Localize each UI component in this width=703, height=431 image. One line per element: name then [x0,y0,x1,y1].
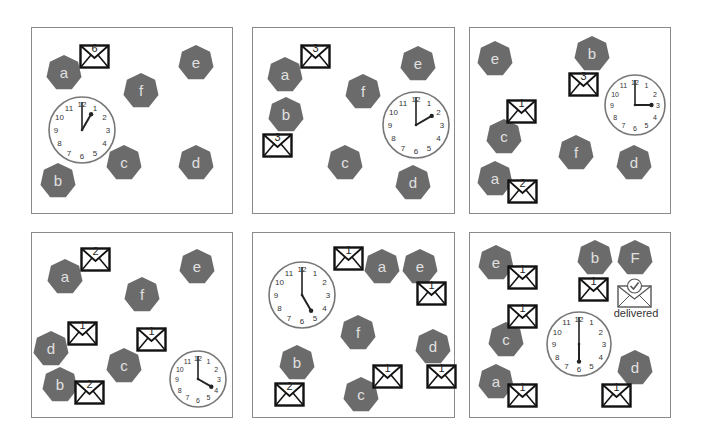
svg-text:1: 1 [589,318,594,327]
envelope-icon: 1 [506,99,537,124]
svg-text:4: 4 [653,114,657,121]
message-count: 1 [506,97,537,109]
svg-text:4: 4 [598,353,603,362]
svg-text:9: 9 [54,126,59,135]
message-count: 3 [568,70,599,82]
svg-text:10: 10 [176,366,184,373]
svg-text:10: 10 [611,91,619,98]
svg-text:7: 7 [186,394,190,401]
node-a: a [364,249,400,285]
node-label: e [477,41,513,77]
node-b: b [40,163,76,199]
envelope-icon: 3 [262,133,293,158]
svg-text:6: 6 [633,125,637,132]
svg-text:2: 2 [214,366,218,373]
node-c: c [106,348,142,384]
node-label: a [46,55,82,91]
svg-text:7: 7 [622,122,626,129]
svg-text:1: 1 [207,358,211,365]
svg-text:6: 6 [577,365,582,374]
svg-text:10: 10 [55,113,64,122]
node-d: d [395,165,431,201]
node-d: d [616,145,652,181]
message-count: 1 [601,381,632,393]
svg-text:8: 8 [555,353,560,362]
svg-text:9: 9 [388,121,393,130]
envelope-icon: 2 [274,382,305,407]
clock-icon: 123456789101112 [603,73,667,141]
node-label: c [106,348,142,384]
svg-text:4: 4 [322,304,327,313]
svg-text:1: 1 [313,269,318,278]
svg-text:9: 9 [274,291,279,300]
envelope-icon: 2 [80,247,111,272]
node-d: d [415,329,451,365]
node-label: a [364,249,400,285]
message-count: 1 [136,325,167,337]
svg-text:11: 11 [184,358,191,365]
node-label: f [123,73,159,109]
svg-text:4: 4 [214,387,218,394]
svg-text:8: 8 [391,134,396,143]
node-b: b [42,367,78,403]
svg-text:1: 1 [645,82,649,89]
svg-text:9: 9 [175,376,179,383]
node-c: c [327,145,363,181]
svg-text:6: 6 [80,152,85,161]
node-a: a [267,57,303,93]
svg-text:1: 1 [427,99,432,108]
node-label: b [279,345,315,381]
node-c: c [106,145,142,181]
node-label: b [574,36,610,72]
node-label: f [345,74,381,110]
message-count: 3 [300,42,331,54]
node-label: b [268,97,304,133]
svg-text:2: 2 [436,108,441,117]
svg-text:7: 7 [287,314,292,323]
clock-icon: 123456789101112 [381,90,451,164]
message-count: 3 [262,131,293,143]
svg-text:1: 1 [93,104,98,113]
svg-text:5: 5 [589,362,594,371]
node-label: b [577,240,613,276]
node-label: f [124,277,160,313]
message-count: 1 [578,275,609,287]
node-b: b [279,345,315,381]
node-f: f [124,277,160,313]
node-b: b [577,240,613,276]
clock-icon: 123456789101112 [267,260,337,334]
svg-text:3: 3 [106,126,111,135]
envelope-icon: 1 [507,265,538,290]
svg-text:5: 5 [313,314,318,323]
node-label: d [395,165,431,201]
svg-text:9: 9 [552,340,557,349]
node-f: f [558,135,594,171]
svg-text:6: 6 [414,147,419,156]
svg-text:11: 11 [562,318,571,327]
svg-text:11: 11 [65,104,74,113]
node-label: a [267,57,303,93]
svg-text:4: 4 [436,134,441,143]
node-label: b [42,367,78,403]
message-count: 1 [333,244,364,256]
node-label: c [106,145,142,181]
node-label: d [33,331,69,367]
svg-text:7: 7 [67,149,72,158]
svg-text:3: 3 [656,102,660,109]
svg-text:8: 8 [277,304,282,313]
envelope-icon: 1 [601,383,632,408]
clock-icon: 123456789101112 [545,310,613,382]
svg-text:3: 3 [217,376,221,383]
svg-text:11: 11 [399,99,408,108]
node-a: a [46,55,82,91]
node-e: e [179,249,215,285]
node-f: f [340,315,376,351]
svg-text:2: 2 [322,278,327,287]
svg-text:2: 2 [102,113,107,122]
envelope-icon: 2 [74,380,105,405]
node-label: e [179,249,215,285]
node-label: c [327,145,363,181]
envelope-icon: 1 [507,304,538,329]
svg-text:2: 2 [653,91,657,98]
message-count: 2 [74,378,105,390]
